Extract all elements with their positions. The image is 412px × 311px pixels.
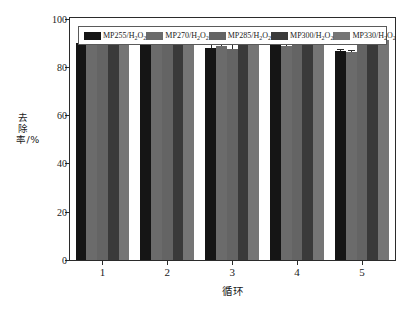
bar	[140, 39, 151, 260]
error-bar-cap	[348, 50, 355, 51]
legend-entry: MP270/H2O2	[146, 31, 208, 40]
figure-container: 去除率/% 020406080100 12345 MP255/H2O2MP270…	[0, 0, 412, 311]
bar	[227, 49, 238, 260]
bar	[238, 38, 249, 260]
x-tick-label: 1	[100, 266, 106, 278]
bar	[292, 38, 303, 260]
plot-frame: 020406080100 12345 MP255/H2O2MP270/H2O2M…	[69, 17, 396, 261]
error-bar-stem	[340, 50, 341, 51]
y-tick-label: 60	[57, 110, 67, 121]
legend-swatch	[146, 32, 163, 40]
bar	[378, 40, 389, 260]
x-tick-label: 4	[294, 266, 300, 278]
bar	[86, 42, 97, 260]
bar	[173, 38, 184, 260]
plot-area: 020406080100 12345	[70, 18, 395, 260]
x-axis-title: 循环	[69, 283, 396, 298]
x-tick-mark	[297, 260, 298, 265]
x-tick-label: 3	[229, 266, 235, 278]
y-tick-label: 80	[57, 61, 67, 72]
x-tick-mark	[102, 260, 103, 265]
chart-legend: MP255/H2O2MP270/H2O2MP285/H2O2MP300/H2O2…	[78, 26, 387, 45]
legend-swatch	[84, 32, 101, 40]
bar	[346, 52, 357, 260]
y-tick-label: 20	[57, 206, 67, 217]
x-tick-label: 2	[165, 266, 171, 278]
legend-swatch	[271, 32, 288, 40]
legend-label: MP300/H2O2	[290, 31, 333, 40]
legend-entry: MP300/H2O2	[271, 31, 333, 40]
bar	[108, 37, 119, 260]
bar	[367, 43, 378, 260]
legend-swatch	[209, 32, 226, 40]
bar	[281, 46, 292, 260]
bar	[205, 48, 216, 260]
legend-label: MP270/H2O2	[165, 31, 208, 40]
bar	[302, 40, 313, 260]
bar	[357, 45, 368, 260]
bar	[335, 51, 346, 260]
bar	[270, 37, 281, 260]
bar	[248, 36, 259, 261]
y-axis-title: 去除率/%	[16, 112, 30, 145]
y-tick-label: 100	[52, 13, 67, 24]
y-tick-label: 40	[57, 158, 67, 169]
bar	[97, 40, 108, 260]
bar	[162, 39, 173, 260]
legend-label: MP285/H2O2	[228, 31, 271, 40]
bar	[119, 36, 130, 261]
legend-label: MP330/H2O2	[352, 31, 395, 40]
legend-swatch	[333, 32, 350, 40]
legend-entry: MP330/H2O2	[333, 31, 395, 40]
bar	[183, 38, 194, 260]
legend-entry: MP285/H2O2	[209, 31, 271, 40]
bar	[216, 46, 227, 260]
bar	[76, 43, 87, 260]
legend-entry: MP255/H2O2	[84, 31, 146, 40]
x-tick-label: 5	[359, 266, 365, 278]
y-tick-label: 0	[62, 255, 67, 266]
error-bar-stem	[351, 51, 352, 52]
bar	[151, 42, 162, 260]
legend-label: MP255/H2O2	[103, 31, 146, 40]
error-bar-cap	[337, 49, 344, 50]
x-tick-mark	[232, 260, 233, 265]
x-tick-mark	[362, 260, 363, 265]
x-tick-mark	[167, 260, 168, 265]
bar	[313, 45, 324, 260]
